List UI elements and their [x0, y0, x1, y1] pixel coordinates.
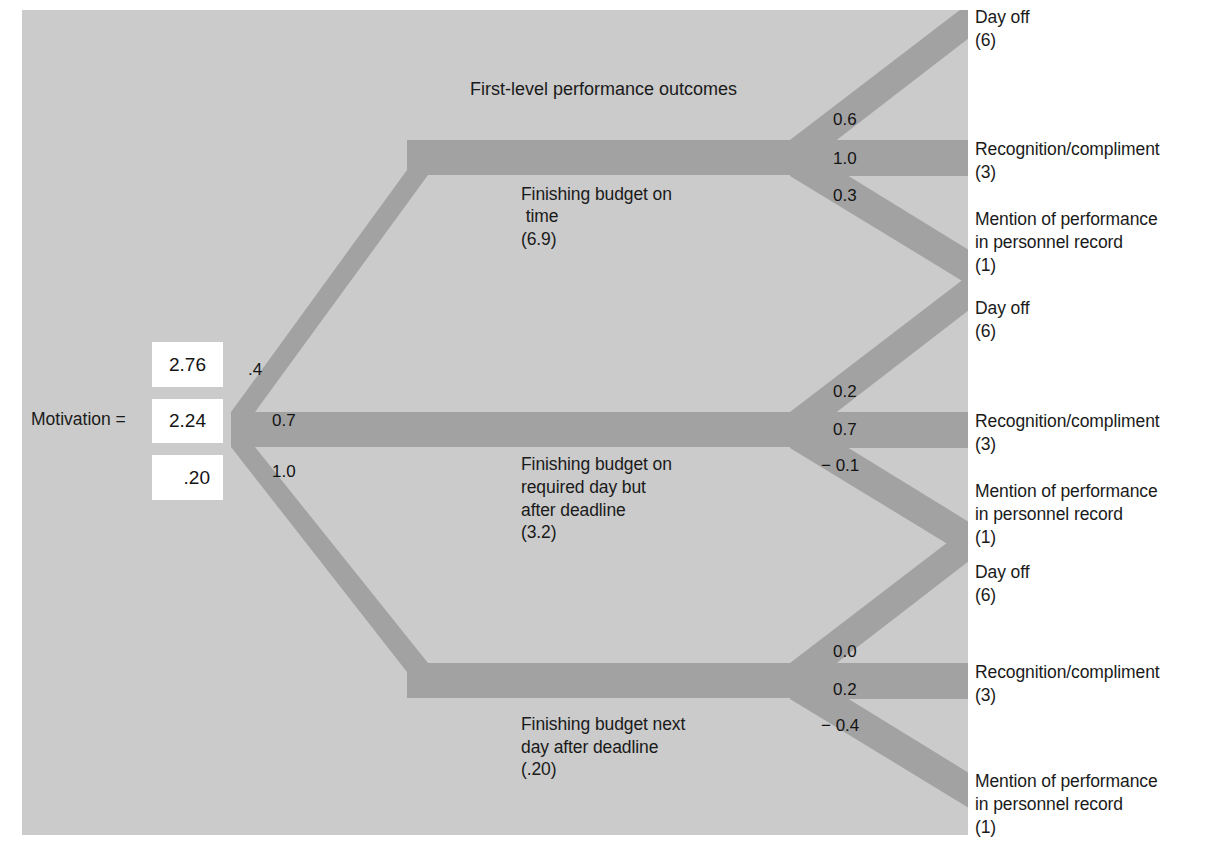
- second-level-outcome-6-name2: in personnel record: [975, 503, 1123, 527]
- first-level-outcome-2-line3: after deadline: [521, 499, 626, 523]
- first-level-outcome-1-valence: (6.9): [521, 228, 556, 252]
- first-level-outcome-3-line2: day after deadline: [521, 736, 658, 760]
- second-level-outcome-2-valence: (3): [975, 161, 996, 185]
- expectancy-value-3: 1.0: [272, 462, 296, 481]
- second-level-outcome-1-name: Day off: [975, 6, 1029, 30]
- instrumentality-value-2-2: 0.7: [833, 420, 857, 439]
- second-level-outcome-7-valence: (6): [975, 584, 996, 608]
- diagram-title: First-level performance outcomes: [470, 79, 737, 100]
- instrumentality-value-1-1: 0.6: [833, 110, 857, 129]
- instrumentality-value-3-3: − 0.4: [821, 716, 859, 735]
- motivation-value-box-2: 2.24: [152, 399, 223, 443]
- second-level-outcome-9-valence: (1): [975, 816, 996, 840]
- first-level-outcome-2-valence: (3.2): [521, 521, 556, 545]
- motivation-label: Motivation =: [31, 409, 126, 430]
- second-level-outcome-5-valence: (3): [975, 433, 996, 457]
- second-level-outcome-6-name: Mention of performance: [975, 480, 1158, 504]
- second-level-outcome-2-name: Recognition/compliment: [975, 138, 1160, 162]
- instrumentality-value-1-3: 0.3: [833, 186, 857, 205]
- expectancy-value-1: .4: [248, 360, 262, 379]
- expectancy-value-2: 0.7: [272, 411, 296, 430]
- second-level-outcome-9-name: Mention of performance: [975, 770, 1158, 794]
- second-level-outcome-3-valence: (1): [975, 254, 996, 278]
- second-level-outcome-9-name2: in personnel record: [975, 793, 1123, 817]
- first-level-outcome-2-line1: Finishing budget on: [521, 453, 672, 477]
- second-level-outcome-4-name: Day off: [975, 297, 1029, 321]
- instrumentality-value-3-1: 0.0: [833, 642, 857, 661]
- first-level-outcome-3-valence: (.20): [521, 758, 556, 782]
- instrumentality-value-2-3: − 0.1: [821, 456, 859, 475]
- first-level-outcome-3-line1: Finishing budget next: [521, 713, 685, 737]
- second-level-outcome-7-name: Day off: [975, 561, 1029, 585]
- second-level-outcome-5-name: Recognition/compliment: [975, 410, 1160, 434]
- first-level-outcome-1-line1: Finishing budget on: [521, 183, 672, 207]
- second-level-outcome-4-valence: (6): [975, 320, 996, 344]
- second-level-outcome-8-name: Recognition/compliment: [975, 661, 1160, 685]
- second-level-outcome-3-name: Mention of performance: [975, 208, 1158, 232]
- instrumentality-value-1-2: 1.0: [833, 149, 857, 168]
- motivation-value-box-1: 2.76: [152, 342, 223, 387]
- second-level-outcome-6-valence: (1): [975, 526, 996, 550]
- expectancy-band-middle: [231, 412, 793, 447]
- first-level-outcome-2-line2: required day but: [521, 476, 646, 500]
- instrumentality-value-3-2: 0.2: [833, 680, 857, 699]
- second-level-outcome-3-name2: in personnel record: [975, 231, 1123, 255]
- instrumentality-value-2-1: 0.2: [833, 382, 857, 401]
- motivation-value-box-3: .20: [152, 455, 223, 500]
- second-level-outcome-8-valence: (3): [975, 684, 996, 708]
- second-level-outcome-1-valence: (6): [975, 29, 996, 53]
- first-level-outcome-1-line2: time: [521, 205, 558, 229]
- diagram-canvas: First-level performance outcomes Motivat…: [0, 0, 1226, 861]
